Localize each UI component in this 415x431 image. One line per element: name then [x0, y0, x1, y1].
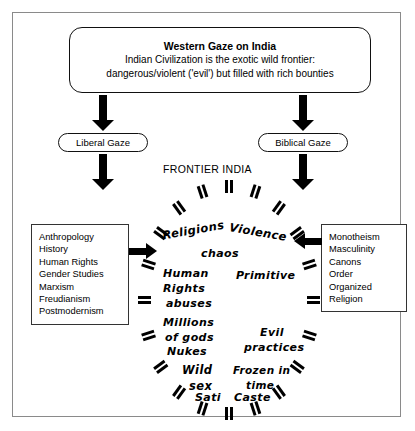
- list-item: Gender Studies: [39, 268, 121, 280]
- liberal-gaze-label: Liberal Gaze: [76, 137, 130, 148]
- circle-word: Primitive: [236, 269, 295, 282]
- circle-tick: [152, 357, 171, 374]
- circle-word: abuses: [166, 297, 212, 310]
- circle-tick: [287, 225, 306, 242]
- diagram-frame: Western Gaze on India Indian Civilizatio…: [12, 12, 401, 417]
- circle-tick: [224, 180, 234, 196]
- list-item: Religion: [329, 293, 399, 305]
- circle-word: Millions: [163, 316, 214, 329]
- circle-tick: [247, 184, 261, 202]
- header-line-2: dangerous/violent ('evil') but filled wi…: [106, 67, 333, 81]
- list-item: Masculinity: [329, 243, 399, 255]
- list-item: Postmodernism: [39, 305, 121, 317]
- circle-word: practices: [244, 341, 304, 354]
- circle-word: Religions: [161, 218, 225, 243]
- circle-word: Caste: [234, 391, 271, 404]
- circle-word: Violence: [228, 220, 288, 244]
- circle-word: Sati: [195, 391, 221, 404]
- circle-word: Nukes: [167, 345, 207, 358]
- circle-tick: [141, 258, 159, 272]
- list-item: Freudianism: [39, 293, 121, 305]
- left-list-box: Anthropology History Human Rights Gender…: [31, 224, 129, 325]
- list-item: Marxism: [39, 281, 121, 293]
- circle-word: Frozen in: [233, 364, 290, 376]
- list-item: Anthropology: [39, 231, 121, 243]
- circle-tick: [138, 295, 154, 305]
- liberal-gaze-box: Liberal Gaze: [58, 133, 148, 152]
- frontier-india-circle: ReligionsViolencechaosHumanRightsabusesP…: [141, 183, 317, 417]
- list-item: Human Rights: [39, 256, 121, 268]
- circle-word: Human: [163, 267, 209, 280]
- circle-word: Wild: [182, 363, 212, 377]
- header-title: Western Gaze on India: [164, 39, 276, 53]
- circle-word: Rights: [163, 282, 205, 295]
- arrow-header-to-biblical-gaze: [292, 95, 314, 131]
- frontier-india-label: FRONTIER INDIA: [13, 163, 402, 175]
- biblical-gaze-box: Biblical Gaze: [258, 133, 348, 152]
- circle-word: of gods: [165, 331, 214, 344]
- right-list-box: Monotheism Masculinity Canons Order Orga…: [321, 224, 407, 312]
- circle-word: Evil: [260, 326, 284, 339]
- list-item: Canons: [329, 256, 399, 268]
- circle-tick: [269, 200, 286, 219]
- list-item: History: [39, 243, 121, 255]
- circle-tick: [171, 381, 188, 400]
- circle-tick: [171, 200, 188, 219]
- circle-tick: [299, 258, 317, 272]
- list-item: Order: [329, 268, 399, 280]
- circle-tick: [304, 295, 320, 305]
- arrow-header-to-liberal-gaze: [92, 95, 114, 131]
- circle-tick: [141, 327, 159, 341]
- circle-tick: [196, 184, 210, 202]
- header-line-1: Indian Civilization is the exotic wild f…: [125, 53, 315, 67]
- circle-tick: [299, 327, 317, 341]
- circle-word: time: [246, 379, 274, 391]
- circle-word: chaos: [201, 247, 239, 260]
- circle-tick: [224, 404, 234, 420]
- list-item: Organized: [329, 281, 399, 293]
- biblical-gaze-label: Biblical Gaze: [275, 137, 330, 148]
- list-item: Monotheism: [329, 231, 399, 243]
- header-box: Western Gaze on India Indian Civilizatio…: [69, 27, 371, 93]
